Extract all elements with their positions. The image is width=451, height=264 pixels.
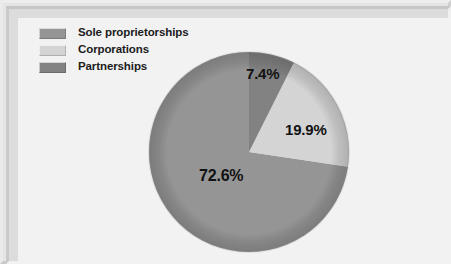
figure-frame-inner-bevel: 7.4% 19.9% 72.6% Sole proprietorships Co… <box>6 6 451 264</box>
legend-label-partnerships: Partnerships <box>78 61 147 73</box>
legend-swatch-sole-proprietorships <box>39 28 66 39</box>
legend-item-sole-proprietorships[interactable]: Sole proprietorships <box>39 25 249 41</box>
chart-legend: Sole proprietorships Corporations Partne… <box>39 25 249 76</box>
legend-label-sole-proprietorships: Sole proprietorships <box>78 27 188 39</box>
pie-rim-shading <box>149 52 349 252</box>
legend-label-corporations: Corporations <box>78 44 149 56</box>
legend-item-corporations[interactable]: Corporations <box>39 42 249 58</box>
pie-label-sole-proprietorships: 72.6% <box>199 168 243 184</box>
pie-label-corporations: 19.9% <box>285 122 327 137</box>
legend-item-partnerships[interactable]: Partnerships <box>39 59 249 75</box>
chart-canvas: 7.4% 19.9% 72.6% Sole proprietorships Co… <box>18 18 451 264</box>
legend-swatch-corporations <box>39 45 66 56</box>
figure-frame: 7.4% 19.9% 72.6% Sole proprietorships Co… <box>0 0 451 264</box>
legend-swatch-partnerships <box>39 62 66 73</box>
pie-label-partnerships: 7.4% <box>246 66 279 81</box>
